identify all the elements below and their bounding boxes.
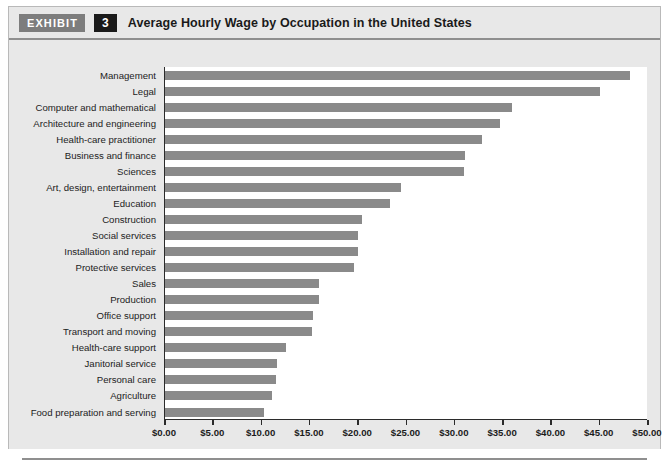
y-axis-tick-label-text: Janitorial service xyxy=(85,358,156,369)
x-axis-tick-label: $15.00 xyxy=(294,427,323,438)
bar-row xyxy=(165,356,647,372)
y-axis-tick-label: Health-care practitioner xyxy=(9,131,161,147)
x-axis-tick xyxy=(212,420,214,425)
bar xyxy=(165,103,512,112)
y-axis-tick-label: Agriculture xyxy=(9,388,161,404)
bar-row xyxy=(165,83,647,99)
y-axis-tick-label-text: Office support xyxy=(96,310,156,321)
y-axis-tick-label-text: Health-care practitioner xyxy=(56,134,156,145)
y-axis-tick-label: Personal care xyxy=(9,372,161,388)
y-axis-tick-label-text: Protective services xyxy=(75,262,156,273)
plot-area xyxy=(164,67,647,420)
x-axis-tick xyxy=(502,420,504,425)
x-axis-tick xyxy=(647,420,649,425)
x-axis-tick-label: $10.00 xyxy=(246,427,275,438)
y-axis-tick-label: Computer and mathematical xyxy=(9,99,161,115)
bar xyxy=(165,375,276,384)
x-axis-tick-label: $30.00 xyxy=(439,427,468,438)
y-axis-tick-label: Sciences xyxy=(9,163,161,179)
x-axis-tick xyxy=(454,420,456,425)
y-axis-tick-label: Health-care support xyxy=(9,340,161,356)
bar-row xyxy=(165,163,647,179)
bar-row xyxy=(165,308,647,324)
bar xyxy=(165,263,354,272)
bar-row xyxy=(165,99,647,115)
bar-row xyxy=(165,195,647,211)
y-axis-tick-label: Business and finance xyxy=(9,147,161,163)
x-axis-tick-label: $25.00 xyxy=(391,427,420,438)
bar-row xyxy=(165,276,647,292)
y-axis-tick-label-text: Sciences xyxy=(117,166,156,177)
y-axis-tick-label: Art, design, entertainment xyxy=(9,179,161,195)
x-axis-tick-label: $50.00 xyxy=(632,427,661,438)
bar-row xyxy=(165,244,647,260)
bar xyxy=(165,295,319,304)
x-axis-tick-label: $40.00 xyxy=(536,427,565,438)
bar-row xyxy=(165,147,647,163)
y-axis-tick-label: Construction xyxy=(9,211,161,227)
y-axis-tick-label: Sales xyxy=(9,276,161,292)
y-axis-tick-label: Protective services xyxy=(9,260,161,276)
bar-row xyxy=(165,388,647,404)
y-axis-tick-label-text: Business and finance xyxy=(65,150,156,161)
x-axis-tick xyxy=(599,420,601,425)
bar xyxy=(165,327,312,336)
y-axis-tick-label-text: Personal care xyxy=(97,374,156,385)
bar-row xyxy=(165,324,647,340)
bar-row xyxy=(165,67,647,83)
y-axis-tick-label-text: Production xyxy=(110,294,156,305)
page-title: Average Hourly Wage by Occupation in the… xyxy=(128,16,472,30)
y-axis-tick-label-text: Art, design, entertainment xyxy=(46,182,156,193)
y-axis-tick-label: Food preparation and serving xyxy=(9,404,161,420)
y-axis-tick-label-text: Health-care support xyxy=(72,342,156,353)
y-axis-tick-label: Education xyxy=(9,195,161,211)
bar xyxy=(165,183,401,192)
y-axis-tick-label: Office support xyxy=(9,308,161,324)
bar-row xyxy=(165,115,647,131)
y-axis-tick-label: Legal xyxy=(9,83,161,99)
y-axis-tick-label: Architecture and engineering xyxy=(9,115,161,131)
bar xyxy=(165,311,313,320)
y-axis-tick-label-text: Legal xyxy=(133,86,156,97)
exhibit-root: EXHIBIT 3 Average Hourly Wage by Occupat… xyxy=(0,0,669,471)
bar-row xyxy=(165,179,647,195)
bar-row xyxy=(165,260,647,276)
bar xyxy=(165,199,390,208)
bar xyxy=(165,71,630,80)
y-axis-tick-label-text: Agriculture xyxy=(110,390,156,401)
bar-row xyxy=(165,292,647,308)
bar xyxy=(165,279,319,288)
footer-divider xyxy=(22,458,647,460)
x-axis-tick-label: $5.00 xyxy=(200,427,224,438)
x-axis-tick-label: $45.00 xyxy=(584,427,613,438)
x-axis-tick-label: $35.00 xyxy=(487,427,516,438)
y-axis-tick-label: Management xyxy=(9,67,161,83)
y-axis-tick-label: Installation and repair xyxy=(9,244,161,260)
bar-row xyxy=(165,404,647,420)
bar xyxy=(165,408,264,417)
bar xyxy=(165,343,286,352)
y-axis-tick-label-text: Architecture and engineering xyxy=(33,118,156,129)
chart-container: ManagementLegalComputer and mathematical… xyxy=(9,40,660,449)
bar xyxy=(165,119,500,128)
bar xyxy=(165,391,272,400)
x-axis-tick-label: $20.00 xyxy=(343,427,372,438)
x-axis: $0.00$5.00$10.00$15.00$20.00$25.00$30.00… xyxy=(164,420,647,446)
y-axis-tick-label-text: Installation and repair xyxy=(64,246,156,257)
bar xyxy=(165,247,358,256)
bar-row xyxy=(165,227,647,243)
exhibit-badge: EXHIBIT xyxy=(19,14,85,32)
exhibit-header: EXHIBIT 3 Average Hourly Wage by Occupat… xyxy=(9,7,660,38)
bar-rows xyxy=(165,67,647,419)
x-axis-tick xyxy=(309,420,311,425)
bar-row xyxy=(165,211,647,227)
y-axis-tick-label-text: Social services xyxy=(92,230,156,241)
x-axis-tick-label: $0.00 xyxy=(152,427,176,438)
y-axis-tick-label-text: Sales xyxy=(132,278,156,289)
x-axis-tick xyxy=(357,420,359,425)
y-axis-tick-label-text: Computer and mathematical xyxy=(35,102,156,113)
x-axis-tick xyxy=(406,420,408,425)
y-axis-tick-label-text: Food preparation and serving xyxy=(31,407,156,418)
y-axis-labels: ManagementLegalComputer and mathematical… xyxy=(9,67,161,420)
y-axis-tick-label-text: Construction xyxy=(102,214,156,225)
